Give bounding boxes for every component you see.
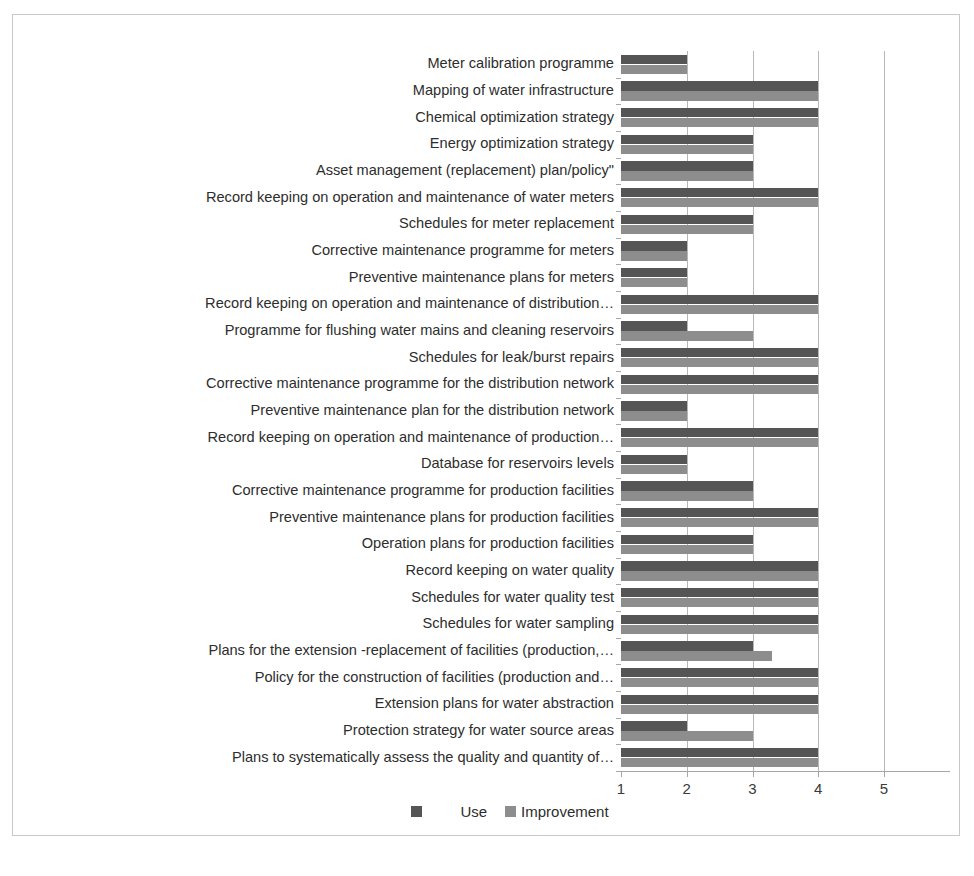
category-label: Schedules for meter replacement: [399, 217, 614, 232]
bar-improvement: [621, 171, 753, 181]
x-tick-1: [621, 771, 622, 777]
bar-improvement: [621, 118, 818, 128]
bar-improvement: [621, 625, 818, 635]
bar-improvement: [621, 758, 818, 768]
bar-use: [621, 641, 753, 651]
x-tick-3: [753, 771, 754, 777]
bar-use: [621, 455, 687, 465]
bar-improvement: [621, 251, 687, 261]
bar-row: Energy optimization strategy: [621, 131, 884, 158]
bar-use: [621, 695, 818, 705]
bar-use: [621, 721, 687, 731]
bar-row: Plans to systematically assess the quali…: [621, 744, 884, 771]
bar-improvement: [621, 385, 818, 395]
bar-improvement: [621, 145, 753, 155]
bar-improvement: [621, 465, 687, 475]
category-label: Preventive maintenance plan for the dist…: [251, 403, 614, 418]
legend-entry-improvement[interactable]: Improvement: [505, 803, 609, 820]
bar-improvement: [621, 545, 753, 555]
bar-row: Schedules for water sampling: [621, 611, 884, 638]
bar-improvement: [621, 91, 818, 101]
chart-figure: 12345 Meter calibration programmeMapping…: [12, 14, 960, 836]
bar-row: Plans for the extension -replacement of …: [621, 638, 884, 665]
x-tick-4: [818, 771, 819, 777]
bar-improvement: [621, 731, 753, 741]
bar-improvement: [621, 305, 818, 315]
x-tick-label-2: 2: [683, 780, 691, 797]
bar-use: [621, 188, 818, 198]
bar-row: Corrective maintenance programme for pro…: [621, 478, 884, 505]
bar-use: [621, 348, 818, 358]
x-tick-label-4: 4: [814, 780, 822, 797]
bar-improvement: [621, 705, 818, 715]
bar-row: Schedules for water quality test: [621, 584, 884, 611]
category-label: Plans to systematically assess the quali…: [232, 750, 614, 765]
bar-row: Policy for the construction of facilitie…: [621, 664, 884, 691]
x-axis-extension: [884, 771, 950, 772]
legend-entry-use[interactable]: Use: [411, 803, 487, 820]
bar-row: Record keeping on operation and maintena…: [621, 184, 884, 211]
bar-row: Record keeping on operation and maintena…: [621, 291, 884, 318]
x-tick-label-5: 5: [880, 780, 888, 797]
bar-row: Asset management (replacement) plan/poli…: [621, 158, 884, 185]
bar-improvement: [621, 438, 818, 448]
bar-use: [621, 668, 818, 678]
bar-improvement: [621, 678, 818, 688]
bar-use: [621, 748, 818, 758]
bar-row: Extension plans for water abstraction: [621, 691, 884, 718]
category-label: Preventive maintenance plans for meters: [349, 270, 614, 285]
bar-use: [621, 108, 818, 118]
bar-row: Protection strategy for water source are…: [621, 718, 884, 745]
bar-row: Schedules for meter replacement: [621, 211, 884, 238]
bar-improvement: [621, 331, 753, 341]
bar-improvement: [621, 491, 753, 501]
category-label: Schedules for water sampling: [423, 617, 614, 632]
category-label: Energy optimization strategy: [430, 137, 614, 152]
category-label: Mapping of water infrastructure: [413, 83, 614, 98]
bar-row: Record keeping on water quality: [621, 558, 884, 585]
bar-use: [621, 588, 818, 598]
bar-use: [621, 615, 818, 625]
legend-swatch-use-icon: [411, 806, 422, 817]
bar-row: Corrective maintenance programme for met…: [621, 238, 884, 265]
bar-improvement: [621, 411, 687, 421]
x-tick-2: [687, 771, 688, 777]
bar-use: [621, 241, 687, 251]
x-tick-5: [884, 771, 885, 777]
bar-improvement: [621, 571, 818, 581]
x-tick-label-3: 3: [748, 780, 756, 797]
bar-use: [621, 428, 818, 438]
bar-improvement: [621, 518, 818, 528]
category-label: Meter calibration programme: [427, 57, 614, 72]
bar-row: Schedules for leak/burst repairs: [621, 344, 884, 371]
category-label: Operation plans for production facilitie…: [362, 537, 614, 552]
category-label: Record keeping on operation and maintena…: [205, 297, 614, 312]
bar-improvement: [621, 278, 687, 288]
bar-row: Record keeping on operation and maintena…: [621, 424, 884, 451]
category-label: Corrective maintenance programme for the…: [206, 377, 614, 392]
bar-use: [621, 561, 818, 571]
category-label: Schedules for water quality test: [411, 590, 614, 605]
bar-use: [621, 321, 687, 331]
bar-use: [621, 508, 818, 518]
bar-improvement: [621, 225, 753, 235]
category-label: Asset management (replacement) plan/poli…: [316, 163, 614, 178]
x-tick-label-1: 1: [617, 780, 625, 797]
bar-improvement: [621, 198, 818, 208]
bar-row: Mapping of water infrastructure: [621, 78, 884, 105]
legend-label-use: Use: [460, 803, 487, 820]
chart-legend: Use Improvement: [13, 803, 961, 820]
bar-row: Preventive maintenance plan for the dist…: [621, 398, 884, 425]
bar-improvement: [621, 651, 772, 661]
category-label: Corrective maintenance programme for pro…: [232, 483, 614, 498]
bar-use: [621, 215, 753, 225]
bar-row: Meter calibration programme: [621, 51, 884, 78]
bar-row: Programme for flushing water mains and c…: [621, 318, 884, 345]
category-label: Policy for the construction of facilitie…: [255, 670, 614, 685]
category-label: Record keeping on water quality: [406, 563, 615, 578]
bar-improvement: [621, 358, 818, 368]
bar-row: Corrective maintenance programme for the…: [621, 371, 884, 398]
category-label: Record keeping on operation and maintena…: [206, 190, 614, 205]
bar-use: [621, 481, 753, 491]
legend-swatch-improvement-icon: [505, 806, 516, 817]
